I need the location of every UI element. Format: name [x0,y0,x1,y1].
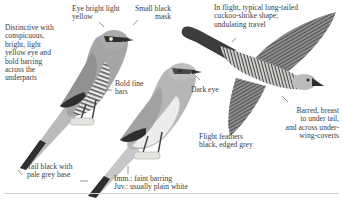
label-small-black-mask: Small black mask [135,5,171,22]
label-barred-breast: Barred, breast to under tail, and across… [286,107,339,141]
label-eye-bright: Eye bright light yellow [72,5,120,22]
label-distinctive: Distinctive with conspicuous, bright, li… [5,24,54,83]
label-in-flight: In flight, typical long-tailed cuckoo-sh… [214,4,298,29]
label-immature: Imm.: faint barring Juv.: usually plain … [114,175,188,192]
label-flight-feathers: Flight feathers black, edged grey [199,133,253,150]
label-dark-eye: Dark eye [191,86,219,94]
label-tail: Tail black with pale grey base [27,163,72,180]
label-bold-fine-bars: Bold fine bars [115,80,143,97]
field-guide-plate: Distinctive with conspicuous, bright, li… [0,0,343,201]
bottom-divider [4,193,339,194]
